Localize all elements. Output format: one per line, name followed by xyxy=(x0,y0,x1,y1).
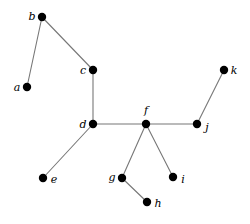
graph-edge-f-i xyxy=(146,124,173,177)
graph-node-label-b: b xyxy=(28,11,35,22)
graph-canvas xyxy=(0,0,250,224)
graph-edge-f-g xyxy=(122,124,146,178)
graph-node-b xyxy=(38,13,46,21)
graph-node-label-i: i xyxy=(181,174,185,185)
graph-figure: abcdefghijk xyxy=(0,0,250,224)
graph-node-i xyxy=(169,173,177,181)
graph-edge-d-e xyxy=(43,124,93,178)
graph-node-label-k: k xyxy=(231,65,238,76)
graph-node-e xyxy=(39,174,47,182)
graph-node-f xyxy=(142,120,150,128)
graph-node-g xyxy=(118,174,126,182)
graph-node-label-a: a xyxy=(14,82,21,93)
graph-node-label-h: h xyxy=(154,198,161,209)
graph-node-k xyxy=(220,66,228,74)
graph-node-label-f: f xyxy=(144,105,148,116)
graph-node-h xyxy=(143,198,151,206)
graph-node-d xyxy=(89,120,97,128)
graph-node-label-g: g xyxy=(108,172,115,183)
graph-edge-g-h xyxy=(122,178,147,202)
graph-edge-a-b xyxy=(27,17,42,87)
graph-node-a xyxy=(23,83,31,91)
graph-node-label-c: c xyxy=(80,65,86,76)
graph-node-label-j: j xyxy=(205,122,208,133)
graph-node-label-e: e xyxy=(51,174,58,185)
graph-node-j xyxy=(193,120,201,128)
graph-edge-j-k xyxy=(197,70,224,124)
graph-edge-b-c xyxy=(42,17,93,70)
graph-node-c xyxy=(89,66,97,74)
graph-node-label-d: d xyxy=(79,119,86,130)
